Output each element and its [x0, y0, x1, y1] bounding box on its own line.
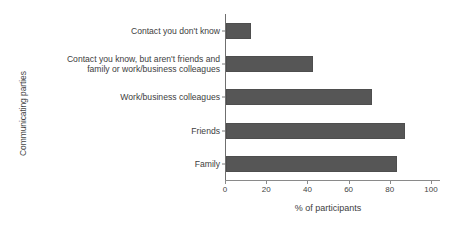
x-axis-tick [390, 181, 391, 184]
x-axis-tick [225, 181, 226, 184]
x-axis-tick-label: 20 [251, 185, 281, 194]
y-axis-tick [222, 64, 225, 65]
x-axis-tick [307, 181, 308, 184]
category-label: Family [20, 159, 220, 169]
bar [226, 156, 397, 172]
category-label: Contact you know, but aren't friends and… [20, 54, 220, 75]
x-axis-tick-label: 100 [416, 185, 446, 194]
bar-row: Contact you don't know [225, 14, 431, 47]
x-axis-tick [431, 181, 432, 184]
category-label: Friends [20, 126, 220, 136]
x-axis-tick-label: 0 [210, 185, 240, 194]
bar-row: Friends [225, 114, 431, 147]
bar-row: Family [225, 148, 431, 181]
bar-row: Work/business colleagues [225, 81, 431, 114]
x-axis-tick [349, 181, 350, 184]
bar [226, 56, 313, 72]
bar [226, 23, 251, 39]
bar [226, 89, 372, 105]
y-axis-tick [222, 30, 225, 31]
bar-chart-figure: Communicating parties Contact you don't … [0, 0, 458, 230]
y-axis-tick [222, 97, 225, 98]
category-label: Work/business colleagues [20, 92, 220, 102]
plot-area: Contact you don't knowContact you know, … [225, 14, 431, 181]
x-axis-tick [266, 181, 267, 184]
x-axis-tick-label: 60 [334, 185, 364, 194]
bar-row: Contact you know, but aren't friends and… [225, 47, 431, 80]
bar [226, 123, 405, 139]
y-axis-tick [222, 164, 225, 165]
x-axis-tick-label: 80 [375, 185, 405, 194]
y-axis-tick [222, 130, 225, 131]
x-axis-title: % of participants [225, 203, 431, 213]
category-label: Contact you don't know [20, 25, 220, 35]
x-axis-tick-label: 40 [292, 185, 322, 194]
